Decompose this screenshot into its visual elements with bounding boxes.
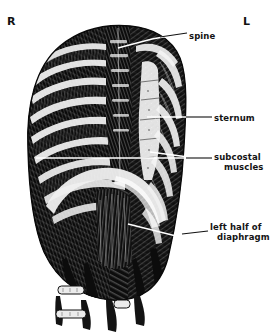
label-subcostal-muscles: subcostal muscles <box>214 152 263 172</box>
left-side-marker: L <box>243 16 250 27</box>
label-spine-line1: spine <box>189 31 215 41</box>
label-sternum-line1: sternum <box>214 113 255 123</box>
label-subcostal-line1: subcostal <box>214 152 261 162</box>
label-spine: spine <box>189 31 215 41</box>
thorax-body <box>20 18 198 314</box>
label-left-half-of-diaphragm: left half of diaphragm <box>210 222 270 242</box>
label-subcostal-line2: muscles <box>214 162 263 172</box>
label-sternum: sternum <box>214 113 255 123</box>
label-diaphragm-line1: left half of <box>210 222 262 232</box>
right-side-marker: R <box>7 16 15 27</box>
leader-line-spine-outer <box>160 33 187 37</box>
label-diaphragm-line2: diaphragm <box>210 232 270 242</box>
